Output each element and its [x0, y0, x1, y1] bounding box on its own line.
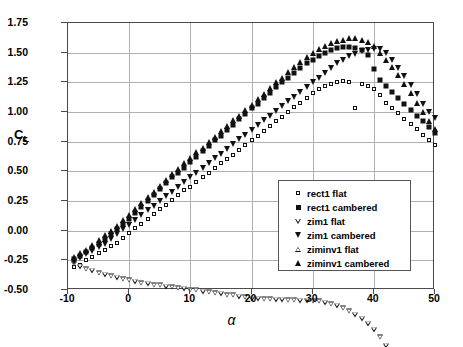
data-point — [298, 101, 302, 105]
data-point — [145, 281, 151, 286]
data-point — [90, 255, 94, 259]
y-axis-tick-label: 0.00 — [0, 225, 28, 235]
data-point — [181, 160, 187, 166]
data-point — [414, 113, 419, 118]
data-point — [279, 103, 285, 109]
data-point — [151, 189, 157, 195]
data-point — [169, 284, 175, 289]
data-point — [334, 38, 340, 44]
data-point — [157, 283, 163, 288]
data-point — [157, 183, 163, 189]
data-point — [163, 284, 169, 289]
data-point — [230, 117, 236, 123]
data-point — [402, 101, 407, 106]
grid-line-horizontal — [68, 171, 433, 172]
data-point — [249, 102, 255, 108]
legend-item: ziminv1 flat — [279, 242, 410, 256]
data-point — [206, 160, 212, 166]
y-axis-tick-label: 1.00 — [0, 106, 28, 116]
data-point — [401, 73, 407, 79]
y-axis-tick-mark — [61, 170, 67, 171]
data-point — [311, 91, 315, 95]
data-point — [420, 109, 426, 115]
data-point — [421, 133, 425, 137]
data-point — [218, 128, 224, 134]
data-point — [83, 247, 89, 253]
data-point — [224, 146, 230, 152]
data-point — [322, 50, 327, 55]
y-axis-tick-label: 1.25 — [0, 76, 28, 86]
data-point — [89, 268, 95, 273]
legend-item: rect1 cambered — [279, 200, 410, 214]
data-point — [285, 98, 291, 104]
data-point — [108, 228, 114, 234]
data-point — [83, 267, 89, 272]
data-point — [347, 44, 352, 49]
data-point — [200, 165, 206, 171]
data-point — [176, 193, 180, 197]
x-axis-tick-label: 40 — [353, 292, 393, 304]
data-point — [340, 57, 346, 63]
data-point — [365, 53, 370, 58]
data-point — [114, 231, 120, 237]
data-point — [132, 206, 138, 212]
x-axis-tick-label: 30 — [292, 292, 332, 304]
data-point — [365, 47, 371, 53]
data-point — [187, 174, 193, 180]
data-point — [132, 279, 138, 284]
data-point — [77, 250, 83, 256]
data-point — [182, 188, 186, 192]
data-point — [359, 37, 365, 43]
data-point — [108, 236, 114, 242]
data-point — [360, 82, 364, 86]
data-point — [224, 293, 230, 298]
legend-marker-glyph — [296, 205, 301, 210]
data-point — [297, 89, 303, 95]
data-point — [346, 35, 352, 41]
y-axis-tick-label: 0.75 — [0, 136, 28, 146]
data-point — [383, 343, 389, 347]
data-point — [206, 144, 211, 149]
data-point — [310, 79, 316, 85]
data-point — [310, 50, 316, 56]
data-point — [352, 35, 358, 41]
data-point — [426, 109, 432, 115]
data-point — [268, 124, 272, 128]
legend-marker-icon — [289, 247, 307, 252]
data-point — [415, 127, 419, 131]
data-point — [97, 251, 101, 255]
data-point — [408, 82, 414, 88]
data-point — [206, 139, 212, 145]
data-point — [420, 101, 426, 107]
grid-line-vertical — [129, 23, 130, 288]
legend-marker-icon — [289, 260, 307, 266]
data-point — [384, 101, 388, 105]
data-point — [335, 45, 340, 50]
data-point — [371, 43, 377, 49]
data-point — [120, 276, 126, 281]
data-point — [395, 72, 401, 78]
data-point — [242, 107, 248, 113]
data-point — [261, 91, 267, 97]
data-point — [328, 65, 334, 71]
data-point — [114, 223, 120, 229]
data-point — [219, 161, 223, 165]
y-axis-tick-label: 0.50 — [0, 165, 28, 175]
data-point — [138, 200, 144, 206]
data-point — [182, 165, 187, 170]
data-point — [152, 212, 156, 216]
data-point — [347, 80, 351, 84]
data-point — [273, 297, 279, 302]
data-point — [316, 54, 321, 59]
data-point — [231, 123, 236, 128]
data-point — [236, 113, 242, 119]
legend-marker-glyph — [296, 191, 300, 195]
data-point — [390, 106, 394, 110]
data-point — [170, 198, 174, 202]
data-point — [89, 248, 95, 254]
grid-line-vertical — [252, 23, 253, 288]
legend-item: rect1 flat — [279, 186, 410, 200]
data-point — [378, 93, 382, 97]
data-point — [163, 177, 169, 183]
legend-marker-glyph — [295, 232, 301, 238]
